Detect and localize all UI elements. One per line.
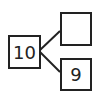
part-top-box[interactable] [60,12,92,46]
part-bottom-box: 9 [60,58,92,91]
whole-box: 10 [8,35,41,69]
whole-value: 10 [13,42,36,63]
part-bottom-value: 9 [70,64,81,85]
